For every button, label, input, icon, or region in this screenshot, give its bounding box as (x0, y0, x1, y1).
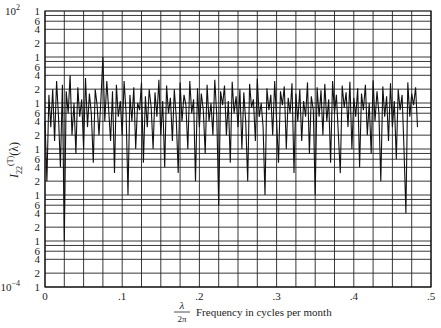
x-tick-label: .2 (195, 290, 203, 302)
y-tick-label: 2 (35, 175, 41, 187)
x-tick-label: 0 (42, 290, 48, 302)
y-tick-label: 1 (35, 235, 41, 247)
y-tick-label: 6 (35, 153, 41, 165)
x-tick-label: .1 (118, 290, 126, 302)
y-tick-label: 1 (35, 5, 41, 17)
y-tick-label: 2 (35, 221, 41, 233)
x-label-denominator: 2π (177, 314, 187, 324)
y-tick-label: 6 (35, 245, 41, 257)
periodogram-chart: 124612461246124612461246110210−4 0.1.2.3… (0, 0, 441, 328)
y-tick-label: 2 (35, 129, 41, 141)
y-decade-label: 102 (5, 3, 20, 17)
y-tick-label: 1 (35, 143, 41, 155)
svg-text:I22(T)(λ): I22(T)(λ) (6, 142, 24, 179)
y-tick-label: 6 (35, 107, 41, 119)
y-tick-label: 1 (35, 51, 41, 63)
x-tick-label: .5 (427, 290, 436, 302)
y-tick-label: 1 (35, 281, 41, 293)
x-label-text: Frequency in cycles per month (196, 306, 332, 318)
y-tick-label: 2 (35, 37, 41, 49)
y-tick-label: 2 (35, 83, 41, 95)
x-tick-label: .4 (350, 290, 359, 302)
y-tick-label: 6 (35, 199, 41, 211)
y-tick-label: 6 (35, 61, 41, 73)
x-label-numerator: λ (179, 299, 185, 311)
y-tick-label: 6 (35, 15, 41, 27)
y-label-arg: (λ) (7, 142, 21, 156)
y-axis-label: I22(T)(λ) (6, 142, 24, 179)
y-tick-label: 2 (35, 267, 41, 279)
y-tick-label: 1 (35, 97, 41, 109)
x-axis-ticks: 0.1.2.3.4.5 (42, 290, 435, 302)
grid-lines (45, 11, 431, 287)
y-label-sub: 22 (15, 166, 24, 174)
y-decade-label: 10−4 (0, 279, 20, 293)
x-axis-label: λ 2π Frequency in cycles per month (174, 299, 332, 324)
y-tick-label: 1 (35, 189, 41, 201)
y-label-sup: (T) (6, 155, 15, 166)
x-tick-label: .3 (272, 290, 281, 302)
